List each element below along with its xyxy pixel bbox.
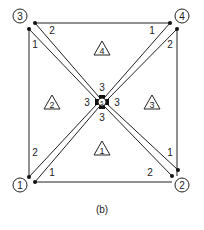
svg-text:2: 2 [49, 25, 55, 36]
finite-element-mesh-diagram: 1 2 3 4 5 1 2 3 4 1 2 1 2 1 2 2 1 [0, 0, 204, 230]
global-node-4: 4 [175, 9, 189, 23]
svg-text:1: 1 [99, 146, 104, 156]
svg-text:2: 2 [179, 180, 185, 191]
svg-text:1: 1 [167, 147, 173, 158]
element-2-marker: 2 [44, 95, 60, 110]
svg-text:3: 3 [17, 11, 23, 22]
element-1-marker: 1 [94, 141, 110, 156]
svg-text:1: 1 [49, 167, 55, 178]
global-node-1: 1 [13, 178, 27, 192]
svg-text:1: 1 [32, 39, 38, 50]
svg-text:4: 4 [179, 11, 185, 22]
svg-text:2: 2 [49, 100, 54, 110]
element-3-marker: 3 [144, 95, 160, 110]
svg-text:2: 2 [32, 147, 38, 158]
svg-text:4: 4 [99, 46, 104, 56]
svg-text:3: 3 [99, 112, 105, 123]
svg-text:3: 3 [84, 97, 90, 108]
svg-text:2: 2 [147, 167, 153, 178]
diag-el2-top [29, 29, 97, 100]
svg-text:3: 3 [99, 82, 105, 93]
figure-caption: (b) [96, 204, 108, 215]
diag-el1-left [35, 107, 99, 182]
global-node-3: 3 [13, 9, 27, 23]
svg-text:1: 1 [17, 180, 23, 191]
element-4-marker: 4 [94, 41, 110, 56]
diag-el1-right [105, 107, 172, 176]
diag-el3-bottom [107, 104, 178, 170]
svg-text:3: 3 [114, 97, 120, 108]
svg-text:1: 1 [149, 25, 155, 36]
global-node-2: 2 [175, 178, 189, 192]
diag-el4-right [105, 23, 170, 97]
svg-text:2: 2 [167, 39, 173, 50]
diag-el4-left [35, 23, 99, 97]
global-node-5: 5 [98, 98, 106, 106]
svg-text:3: 3 [149, 100, 154, 110]
diag-el2-bottom [29, 104, 97, 177]
